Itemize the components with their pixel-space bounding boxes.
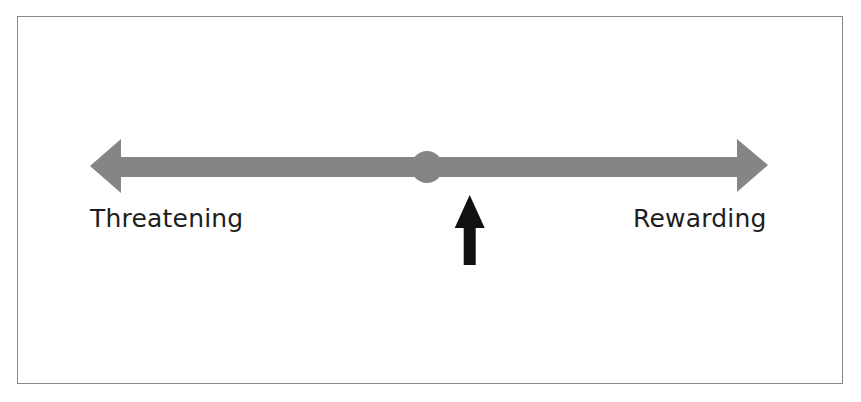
scale-diagram xyxy=(0,0,861,402)
midpoint-marker xyxy=(411,151,443,183)
rewarding-label: Rewarding xyxy=(633,203,767,235)
threatening-label: Threatening xyxy=(90,203,243,235)
left-arrowhead-icon xyxy=(90,139,121,193)
up-arrow-icon xyxy=(455,195,485,265)
right-arrowhead-icon xyxy=(737,139,768,192)
